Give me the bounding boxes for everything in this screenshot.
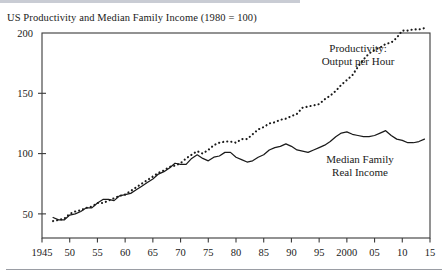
svg-text:150: 150 — [17, 88, 33, 99]
series-annotations: Productivity:Output per HourMedian Famil… — [322, 42, 395, 178]
income-annotation: Real Income — [332, 166, 388, 178]
productivity-annotation: Output per Hour — [322, 55, 395, 67]
y-axis-tick-labels: 50100150200 — [17, 28, 33, 220]
svg-text:50: 50 — [64, 247, 75, 258]
svg-text:60: 60 — [120, 247, 131, 258]
plot-area: 50100150200 1945505560657075808590952000… — [0, 0, 448, 280]
svg-text:75: 75 — [203, 247, 214, 258]
x-axis-tick-labels: 1945505560657075808590952000051015 — [32, 247, 436, 258]
svg-text:2000: 2000 — [336, 247, 357, 258]
bottom-divider — [6, 269, 442, 270]
svg-text:1945: 1945 — [32, 247, 53, 258]
svg-text:15: 15 — [425, 247, 436, 258]
svg-text:200: 200 — [17, 28, 33, 39]
svg-text:80: 80 — [231, 247, 242, 258]
svg-text:90: 90 — [286, 247, 297, 258]
svg-text:55: 55 — [92, 247, 103, 258]
svg-text:65: 65 — [148, 247, 159, 258]
svg-text:70: 70 — [175, 247, 186, 258]
income-annotation: Median Family — [326, 153, 394, 165]
chart-figure: US Productivity and Median Family Income… — [0, 0, 448, 280]
svg-text:10: 10 — [397, 247, 408, 258]
svg-text:05: 05 — [369, 247, 380, 258]
productivity-annotation: Productivity: — [329, 42, 386, 54]
svg-text:50: 50 — [23, 209, 34, 220]
x-axis-ticks — [42, 238, 430, 243]
svg-text:100: 100 — [17, 148, 33, 159]
svg-text:85: 85 — [258, 247, 269, 258]
svg-text:95: 95 — [314, 247, 325, 258]
